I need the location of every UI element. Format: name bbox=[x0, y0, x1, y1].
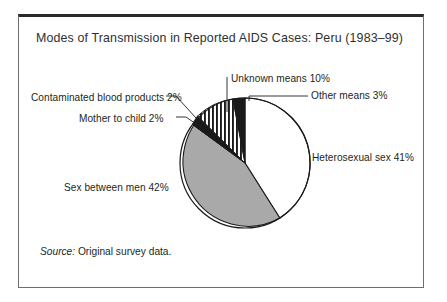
source-text: Original survey data. bbox=[75, 246, 171, 257]
slice-label-unknown-means: Unknown means 10% bbox=[231, 73, 330, 84]
slice-label-other-means: Other means 3% bbox=[311, 90, 387, 101]
slice-label-contaminated-blood-products: Contaminated blood products 2% bbox=[31, 92, 182, 103]
slice-label-mother-to-child: Mother to child 2% bbox=[79, 113, 164, 124]
source-label: Source: bbox=[40, 246, 75, 257]
source-note: Source: Original survey data. bbox=[40, 246, 171, 257]
slice-label-heterosexual-sex: Heterosexual sex 41% bbox=[312, 152, 414, 163]
slice-label-sex-between-men: Sex between men 42% bbox=[64, 182, 169, 193]
